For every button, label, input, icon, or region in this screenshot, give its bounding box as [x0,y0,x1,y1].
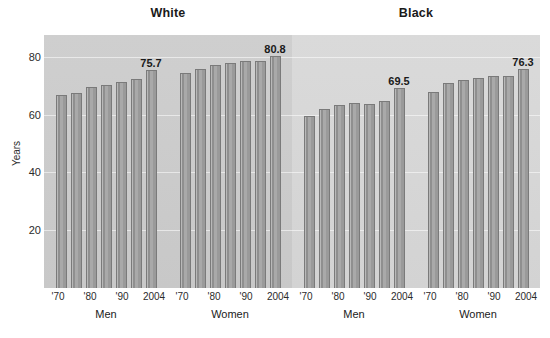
bars: 75.7 [44,35,168,288]
bar[interactable] [210,65,221,288]
bars: 76.3 [416,35,540,288]
bar-group-black-women: 76.3 [416,35,540,288]
bar[interactable] [364,104,375,288]
y-tick-label: 40 [5,167,41,178]
bars: 69.5 [292,35,416,288]
x-tick-label: '80 [445,291,479,302]
bar[interactable] [180,73,191,288]
x-group-label: Women [168,308,292,320]
x-tick-label: '70 [165,291,199,302]
x-tick-labels: '70'80'902004 [50,291,162,307]
bar[interactable] [379,101,390,288]
life-expectancy-bar-chart: White Black Years 20406080 75.780.869.57… [0,0,550,338]
bar[interactable] [255,61,266,288]
bar[interactable] [428,92,439,288]
bar-value-label: 80.8 [264,43,285,55]
bar[interactable] [225,63,236,288]
x-group-label: Men [44,308,168,320]
bar[interactable] [349,103,360,288]
bar-group-white-men: 75.7 [44,35,168,288]
x-tick-labels: '70'80'902004 [298,291,410,307]
x-tick-label: '80 [321,291,355,302]
x-tick-label: '70 [289,291,323,302]
bar-value-label: 69.5 [388,75,409,87]
bar[interactable] [86,87,97,288]
y-tick-label: 60 [5,110,41,121]
x-tick-label: 2004 [509,291,543,302]
x-axis: '70'80'902004Men'70'80'902004Women'70'80… [44,288,540,338]
bar-group-white-women: 80.8 [168,35,292,288]
plot-area: 75.780.869.576.3 [44,35,540,288]
y-axis-ticks: 20406080 [0,0,41,338]
bar[interactable] [131,79,142,288]
bar[interactable]: 75.7 [146,70,157,288]
bar[interactable] [195,69,206,288]
bar[interactable] [319,109,330,288]
x-group-label: Men [292,308,416,320]
x-tick-label: '80 [73,291,107,302]
x-tick-label: '90 [353,291,387,302]
x-tick-label: '70 [41,291,75,302]
panel-title-white: White [44,6,292,20]
x-axis-group: '70'80'902004Women [416,288,540,338]
x-axis-group: '70'80'902004Men [44,288,168,338]
bar[interactable] [503,76,514,288]
bar[interactable] [488,76,499,288]
bar[interactable] [473,78,484,288]
bar-value-label: 75.7 [140,57,161,69]
bars: 80.8 [168,35,292,288]
bar[interactable] [101,85,112,288]
x-tick-label: '70 [413,291,447,302]
bar-value-label: 76.3 [512,56,533,68]
bar[interactable] [116,82,127,288]
bar[interactable] [458,80,469,288]
y-tick-label: 20 [5,225,41,236]
x-axis-group: '70'80'902004Men [292,288,416,338]
x-tick-labels: '70'80'902004 [174,291,286,307]
bar[interactable]: 76.3 [518,69,529,288]
x-tick-label: '90 [105,291,139,302]
bar[interactable] [443,83,454,288]
bar[interactable] [240,61,251,288]
bar[interactable] [71,93,82,289]
bar[interactable] [334,105,345,288]
x-group-label: Women [416,308,540,320]
x-tick-label: '80 [197,291,231,302]
y-tick-label: 80 [5,52,41,63]
bar[interactable]: 69.5 [394,88,405,288]
bar[interactable]: 80.8 [270,56,281,288]
x-tick-label: '90 [477,291,511,302]
bar-group-black-men: 69.5 [292,35,416,288]
panel-title-black: Black [292,6,540,20]
bar[interactable] [56,95,67,288]
bar[interactable] [304,116,315,289]
x-tick-label: '90 [229,291,263,302]
x-tick-labels: '70'80'902004 [422,291,534,307]
x-axis-group: '70'80'902004Women [168,288,292,338]
